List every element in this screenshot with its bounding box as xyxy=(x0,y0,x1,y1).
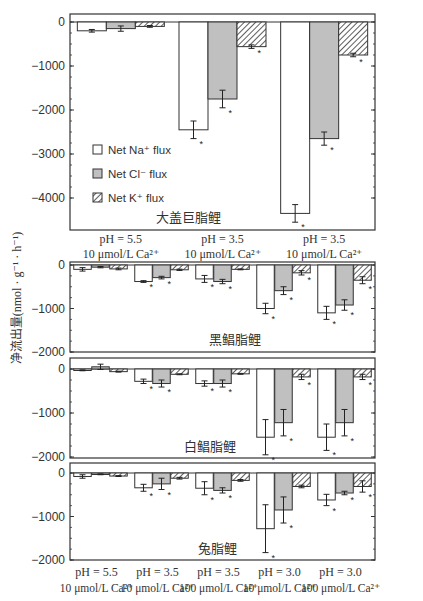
chart-panel-4: 0−1000−2000*********兔脂鲤 xyxy=(31,463,375,567)
significance-marker: * xyxy=(200,139,204,149)
significance-marker: * xyxy=(229,387,233,397)
significance-marker: * xyxy=(333,450,337,460)
significance-marker: * xyxy=(308,275,312,285)
x-tick-label: pH = 5.5 xyxy=(75,565,117,579)
significance-marker: * xyxy=(272,314,276,324)
significance-marker: * xyxy=(369,284,373,294)
significance-marker: * xyxy=(211,282,215,292)
panel-title: 黑鲳脂鲤 xyxy=(209,332,261,347)
panel-title: 白鲳脂鲤 xyxy=(184,439,236,454)
y-tick-label: −1000 xyxy=(31,406,65,420)
significance-marker: * xyxy=(168,490,172,500)
significance-marker: * xyxy=(330,145,334,155)
x-tick-label: pH = 3.5 xyxy=(197,565,239,579)
y-tick-label: −3000 xyxy=(31,147,65,161)
x-tick-label: pH = 3.0 xyxy=(319,565,361,579)
y-tick-label: −4000 xyxy=(31,191,65,205)
bar xyxy=(257,265,275,309)
bar xyxy=(237,22,266,47)
significance-marker: * xyxy=(351,436,355,446)
x-tick-label: pH = 5.5 xyxy=(100,232,142,246)
x-tick-label: 10 μmol/L Ca²⁺ xyxy=(184,247,260,261)
bar xyxy=(293,473,311,486)
y-tick-label: −1000 xyxy=(31,510,65,524)
significance-marker: * xyxy=(211,386,215,396)
significance-marker: * xyxy=(301,222,305,232)
significance-marker: * xyxy=(369,492,373,502)
x-tick-label: pH = 3.5 xyxy=(303,232,345,246)
bar xyxy=(281,22,310,213)
x-tick-label: 10 μmol/L Ca²⁺ xyxy=(286,247,362,261)
significance-marker: * xyxy=(333,506,337,516)
bar xyxy=(153,265,171,278)
y-tick-label: −2000 xyxy=(31,345,65,359)
y-tick-label: −1000 xyxy=(31,302,65,316)
significance-marker: * xyxy=(168,387,172,397)
legend-label: Net Cl⁻ flux xyxy=(108,168,167,180)
significance-marker: * xyxy=(290,523,294,533)
significance-marker: * xyxy=(150,282,154,292)
significance-marker: * xyxy=(168,279,172,289)
legend-swatch xyxy=(93,193,102,202)
y-axis-label: 净流出量(nmol · g⁻¹ · h⁻¹) xyxy=(7,203,23,393)
significance-marker: * xyxy=(351,310,355,320)
legend-label: Net Na⁺ flux xyxy=(108,144,171,156)
y-tick-label: −2000 xyxy=(31,553,65,567)
y-tick-label: 0 xyxy=(58,15,65,29)
y-tick-label: −1000 xyxy=(31,59,65,73)
y-tick-label: 0 xyxy=(58,362,65,376)
significance-marker: * xyxy=(359,57,363,67)
figure: 0−1000−2000−3000−4000******大盖巨脂鲤0−1000−2… xyxy=(0,0,423,601)
x-tick-label: pH = 3.0 xyxy=(258,565,300,579)
y-tick-label: −2000 xyxy=(31,450,65,464)
x-tick-label: 10 μmol/L Ca²⁺ xyxy=(83,247,159,261)
legend-swatch xyxy=(93,145,102,154)
bar xyxy=(135,265,153,282)
significance-marker: * xyxy=(351,495,355,505)
significance-marker: * xyxy=(229,493,233,503)
y-tick-label: 0 xyxy=(58,466,65,480)
significance-marker: * xyxy=(272,553,276,563)
significance-marker: * xyxy=(229,108,233,118)
y-tick-label: 0 xyxy=(58,258,65,272)
chart-panel-3: 0−1000−2000**********白鲳脂鲤 xyxy=(31,358,375,465)
bar xyxy=(310,22,339,139)
significance-marker: * xyxy=(369,380,373,390)
panel-title: 兔脂鲤 xyxy=(198,541,237,556)
x-tick-label: pH = 3.5 xyxy=(136,565,178,579)
chart-panel-1: 0−1000−2000−3000−4000******大盖巨脂鲤 xyxy=(31,14,375,232)
significance-marker: * xyxy=(290,295,294,305)
legend-swatch xyxy=(93,169,102,178)
panel-title: 大盖巨脂鲤 xyxy=(156,210,221,225)
significance-marker: * xyxy=(150,491,154,501)
legend-label: Net K⁺ flux xyxy=(108,192,164,204)
significance-marker: * xyxy=(150,384,154,394)
significance-marker: * xyxy=(211,495,215,505)
bar xyxy=(318,265,336,313)
bar xyxy=(336,473,354,493)
legend: Net Na⁺ fluxNet Cl⁻ fluxNet K⁺ flux xyxy=(93,144,171,204)
y-tick-label: −2000 xyxy=(31,103,65,117)
bar xyxy=(336,265,354,305)
chart-panel-2: 0−1000−2000**********黑鲳脂鲤 xyxy=(31,258,375,359)
significance-marker: * xyxy=(258,48,262,58)
x-tick-label: 100 μmol/L Ca²⁺ xyxy=(301,582,380,595)
bar xyxy=(339,22,368,55)
x-tick-label: pH = 3.5 xyxy=(201,232,243,246)
bar xyxy=(208,22,237,99)
bar xyxy=(179,22,208,130)
significance-marker: * xyxy=(290,436,294,446)
significance-marker: * xyxy=(333,319,337,329)
significance-marker: * xyxy=(229,284,233,294)
significance-marker: * xyxy=(308,380,312,390)
